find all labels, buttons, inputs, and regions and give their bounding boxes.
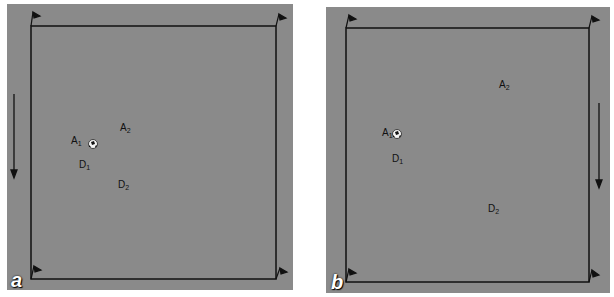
field-boundary	[31, 26, 276, 279]
arrow-down-icon	[11, 94, 17, 178]
label-d2: D2	[118, 180, 129, 191]
corner-flag-icon	[346, 269, 356, 282]
field-diagram-b	[326, 7, 610, 293]
ball-icon	[89, 140, 98, 149]
label-a1: A1	[71, 136, 82, 147]
panel-b: A1 A2 D1 D2 b	[326, 7, 610, 293]
ball-icon	[393, 130, 402, 139]
label-a2: A2	[499, 80, 510, 91]
panel-letter-a: a	[11, 270, 22, 290]
label-d1: D1	[79, 160, 90, 171]
corner-flag-icon	[276, 14, 286, 26]
corner-flag-icon	[589, 270, 599, 282]
corner-flag-icon	[346, 15, 356, 28]
field-diagram-a	[7, 4, 293, 290]
corner-flag-icon	[31, 266, 41, 279]
label-a2: A2	[120, 123, 131, 134]
panel-a: A1 A2 D1 D2 a	[7, 4, 293, 290]
label-d2: D2	[488, 204, 499, 215]
field-boundary	[346, 28, 589, 282]
label-a1: A1	[382, 128, 393, 139]
corner-flag-icon	[31, 12, 40, 26]
label-d1: D1	[392, 154, 403, 165]
corner-flag-icon	[276, 268, 287, 279]
corner-flag-icon	[589, 16, 599, 28]
panel-letter-b: b	[331, 272, 343, 292]
arrow-down-icon	[596, 103, 602, 188]
